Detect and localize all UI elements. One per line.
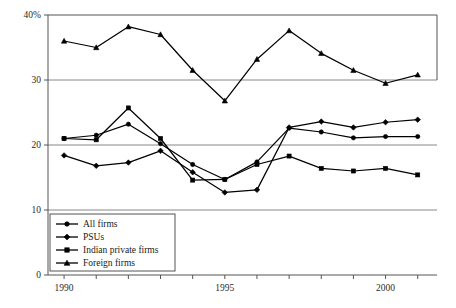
data-point	[384, 166, 388, 170]
data-point	[351, 68, 356, 73]
data-point	[93, 163, 99, 169]
x-tick-label: 1990	[55, 283, 74, 293]
x-axis-ticks	[64, 275, 418, 279]
data-point	[351, 169, 355, 173]
legend-label: All firms	[83, 219, 118, 229]
data-point	[126, 106, 130, 110]
legend-marker-circle-icon	[65, 222, 70, 227]
y-tick-label: 10	[32, 205, 42, 215]
data-point	[416, 134, 420, 138]
data-point	[351, 125, 357, 131]
data-point	[94, 133, 98, 137]
data-point	[286, 28, 291, 33]
data-point	[62, 136, 66, 140]
data-point	[319, 166, 323, 170]
data-point	[94, 138, 98, 142]
y-tick-label: 20	[32, 140, 42, 150]
data-point	[287, 154, 291, 158]
data-point	[61, 153, 67, 159]
data-point	[255, 162, 259, 166]
data-point	[351, 136, 355, 140]
data-point	[318, 119, 324, 125]
x-axis-tick-labels: 199019952000	[55, 283, 396, 293]
data-point	[383, 134, 387, 138]
legend-label: Foreign firms	[83, 258, 135, 268]
series-path	[64, 108, 418, 180]
series-path	[64, 124, 418, 179]
data-point	[416, 173, 420, 177]
data-point	[158, 142, 162, 146]
legend-label: PSUs	[83, 232, 104, 242]
line-chart: 010203040% 199019952000 All firmsPSUsInd…	[0, 0, 456, 308]
data-point	[191, 178, 195, 182]
data-point	[254, 187, 260, 193]
legend-marker-square-icon	[65, 248, 69, 252]
chart-root: 010203040% 199019952000 All firmsPSUsInd…	[0, 0, 456, 308]
y-tick-label: 30	[32, 75, 42, 85]
data-point	[383, 119, 389, 125]
y-axis-tick-labels: 010203040%	[24, 10, 42, 280]
data-point	[415, 117, 421, 123]
data-point	[415, 72, 420, 77]
y-tick-label: 0	[36, 270, 41, 280]
series-all-firms	[62, 122, 420, 182]
data-point	[191, 162, 195, 166]
legend-label: Indian private firms	[83, 245, 159, 255]
y-tick-label: 40%	[24, 10, 42, 20]
data-point	[126, 160, 132, 166]
series-path	[64, 120, 418, 193]
y-axis-ticks	[44, 15, 48, 275]
x-tick-label: 2000	[376, 283, 395, 293]
series-foreign-firms	[61, 24, 420, 103]
data-point	[319, 130, 323, 134]
data-point	[223, 177, 227, 181]
series-path	[64, 27, 418, 101]
data-point	[158, 136, 162, 140]
x-tick-label: 1995	[215, 283, 234, 293]
data-point	[126, 24, 131, 29]
data-point	[126, 122, 130, 126]
data-series-group	[61, 24, 420, 195]
chart-legend: All firmsPSUsIndian private firmsForeign…	[50, 214, 175, 271]
